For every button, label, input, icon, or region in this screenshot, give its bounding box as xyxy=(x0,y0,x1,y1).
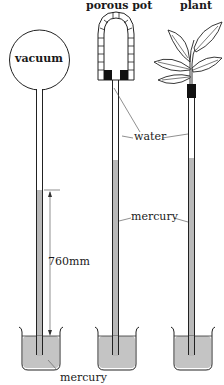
porous-pot-plug-right xyxy=(120,70,128,80)
porous-pot-plug-left xyxy=(104,70,112,80)
porous-pot-mercury-column xyxy=(113,160,118,355)
plant-label: plant xyxy=(180,0,212,12)
vacuum-apparatus xyxy=(10,30,70,370)
porous-pot-label: porous pot xyxy=(86,0,152,12)
leader-lines xyxy=(114,88,188,222)
vacuum-mercury-column xyxy=(37,190,42,355)
plant-mercury-column xyxy=(189,158,194,355)
vacuum-label: vacuum xyxy=(15,52,63,65)
water-label: water xyxy=(134,130,166,143)
plant-plug xyxy=(187,84,196,98)
plant-shoot xyxy=(154,22,222,86)
mercury-bottom-label: mercury xyxy=(60,371,107,384)
barometer-comparison-diagram: vacuum porous pot plant water mercury 76… xyxy=(0,0,224,385)
mercury-middle-label: mercury xyxy=(131,210,178,223)
porous-pot-apparatus xyxy=(95,12,139,370)
height-label: 760mm xyxy=(48,255,90,268)
plant-apparatus xyxy=(154,22,222,370)
